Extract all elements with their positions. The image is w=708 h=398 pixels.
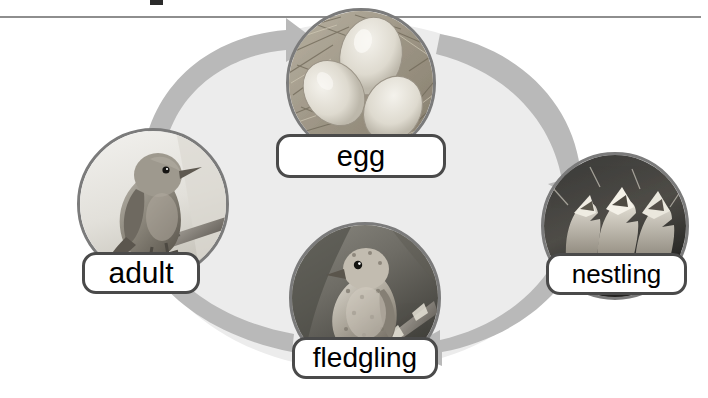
stage-label-adult-text: adult bbox=[108, 256, 173, 290]
stage-label-nestling-text: nestling bbox=[572, 259, 662, 290]
stage-label-fledgling: fledgling bbox=[292, 337, 438, 379]
stage-label-fledgling-text: fledgling bbox=[313, 342, 417, 374]
stage-label-egg: egg bbox=[276, 134, 446, 178]
life-cycle-figure: egg bbox=[0, 0, 708, 398]
stage-label-nestling: nestling bbox=[546, 253, 687, 295]
stage-label-adult: adult bbox=[82, 252, 200, 294]
stage-label-egg-text: egg bbox=[337, 140, 385, 173]
